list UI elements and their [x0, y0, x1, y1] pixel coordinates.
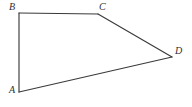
- edge-da: [19, 57, 172, 92]
- edge-bc: [19, 13, 98, 14]
- vertex-label-a: A: [9, 85, 15, 95]
- geometry-figure: B C D A: [0, 0, 192, 107]
- vertex-label-c: C: [99, 2, 106, 12]
- edge-cd: [98, 14, 172, 57]
- vertex-label-d: D: [175, 46, 182, 56]
- vertex-label-b: B: [9, 2, 15, 12]
- quadrilateral-abcd-drawing: [0, 0, 192, 107]
